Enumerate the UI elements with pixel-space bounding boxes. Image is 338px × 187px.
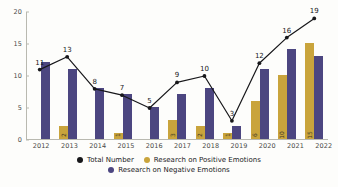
bar-negative-emotions[interactable]	[150, 107, 159, 139]
legend-row-secondary: Research on Negative Emotions	[108, 166, 230, 174]
legend-dot-negative-emotions	[108, 167, 114, 173]
legend-item-positive-emotions[interactable]: Research on Positive Emotions	[144, 156, 261, 164]
bar-negative-emotions[interactable]	[95, 88, 104, 139]
x-axis-label: 2016	[140, 142, 168, 150]
legend-item-total-number[interactable]: Total Number	[77, 156, 134, 164]
bar-group	[27, 12, 54, 139]
legend-label-negative-emotions: Research on Negative Emotions	[118, 166, 230, 174]
line-point-label: 3	[230, 111, 234, 118]
x-axis-label: 2012	[27, 142, 55, 150]
bar-negative-emotions[interactable]	[314, 56, 323, 139]
x-axis-label: 2014	[84, 142, 112, 150]
bar-group: 1	[109, 12, 136, 139]
bar-value-label: 10	[279, 131, 285, 139]
bar-group: 2	[191, 12, 218, 139]
chart-container: 05101520 2132161015 11138759103121619 20…	[0, 0, 338, 187]
y-tick-mark	[26, 140, 29, 141]
bar-negative-emotions[interactable]	[287, 49, 296, 139]
bar-positive-emotions[interactable]: 1	[114, 133, 123, 139]
legend-row-primary: Total Number Research on Positive Emotio…	[77, 156, 261, 164]
line-point-label: 11	[35, 60, 44, 67]
bar-negative-emotions[interactable]	[41, 62, 50, 139]
bar-negative-emotions[interactable]	[205, 88, 214, 139]
bar-group: 2	[54, 12, 81, 139]
bar-value-label: 1	[225, 133, 231, 137]
bar-negative-emotions[interactable]	[260, 69, 269, 139]
bar-positive-emotions[interactable]: 6	[251, 101, 260, 139]
line-point-label: 16	[282, 28, 291, 35]
legend-label-total-number: Total Number	[87, 156, 134, 164]
line-point-label: 19	[310, 8, 319, 15]
legend-dot-positive-emotions	[144, 157, 150, 163]
line-point-label: 10	[200, 66, 209, 73]
plot-area: 05101520 2132161015 11138759103121619	[26, 12, 328, 140]
line-point-label: 8	[92, 79, 96, 86]
legend-dot-total-number	[77, 157, 83, 163]
x-axis-label: 2019	[225, 142, 253, 150]
bar-group: 15	[301, 12, 328, 139]
line-point-label: 5	[147, 98, 151, 105]
bar-negative-emotions[interactable]	[232, 126, 241, 139]
line-point-label: 9	[175, 72, 179, 79]
x-axis-label: 2020	[253, 142, 281, 150]
bar-positive-emotions[interactable]: 2	[59, 126, 68, 139]
y-tick-label: 10	[14, 72, 22, 80]
line-point-label: 13	[63, 47, 72, 54]
bar-value-label: 6	[252, 133, 258, 137]
x-axis-line	[26, 139, 328, 140]
x-axis-labels: 2012201320142015201620172018201920202021…	[27, 142, 338, 150]
bar-value-label: 2	[61, 133, 67, 137]
y-tick-label: 15	[14, 40, 22, 48]
x-axis-label: 2013	[55, 142, 83, 150]
bar-group: 6	[246, 12, 273, 139]
legend-label-positive-emotions: Research on Positive Emotions	[154, 156, 261, 164]
bar-positive-emotions[interactable]: 15	[305, 43, 314, 139]
y-tick-label: 0	[18, 136, 22, 144]
bar-value-label: 15	[307, 131, 313, 139]
bar-group: 1	[219, 12, 246, 139]
bar-value-label: 2	[197, 133, 203, 137]
bar-value-label: 3	[170, 133, 176, 137]
bar-positive-emotions[interactable]: 10	[278, 75, 287, 139]
bar-group	[82, 12, 109, 139]
x-axis-label: 2015	[112, 142, 140, 150]
bar-value-label: 1	[115, 133, 121, 137]
bar-positive-emotions[interactable]: 3	[168, 120, 177, 139]
bar-positive-emotions[interactable]: 2	[196, 126, 205, 139]
bar-negative-emotions[interactable]	[68, 69, 77, 139]
chart-legend: Total Number Research on Positive Emotio…	[0, 156, 338, 174]
legend-item-negative-emotions[interactable]: Research on Negative Emotions	[108, 166, 230, 174]
line-point-label: 12	[255, 53, 264, 60]
x-axis-label: 2021	[281, 142, 309, 150]
x-axis-label: 2018	[197, 142, 225, 150]
line-point-label: 7	[120, 85, 124, 92]
bar-negative-emotions[interactable]	[123, 94, 132, 139]
bar-negative-emotions[interactable]	[177, 94, 186, 139]
bar-group	[136, 12, 163, 139]
bar-positive-emotions[interactable]: 1	[223, 133, 232, 139]
x-axis-label: 2022	[310, 142, 338, 150]
y-tick-label: 5	[18, 104, 22, 112]
x-axis-label: 2017	[168, 142, 196, 150]
y-tick-label: 20	[14, 8, 22, 16]
